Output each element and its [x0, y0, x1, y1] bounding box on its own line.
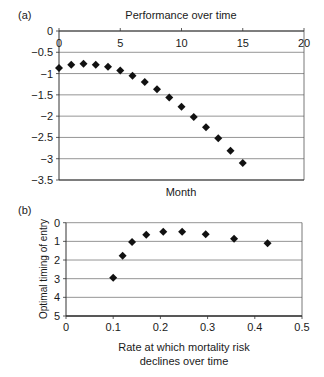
data-point-diamond [104, 63, 112, 71]
axes [56, 28, 304, 180]
y-tick-label: −1 [40, 68, 53, 80]
data-point-diamond [141, 78, 149, 86]
panel-label-b: (b) [18, 204, 31, 216]
data-point-diamond [55, 64, 63, 72]
y-tick-label: −3 [40, 153, 53, 165]
x-tick-label: 0 [63, 321, 69, 333]
y-tick-label: −2.5 [31, 131, 53, 143]
x-tick-label: 0.1 [106, 321, 121, 333]
y-tick-label: 3 [54, 273, 60, 285]
x-tick-label: 0.3 [200, 321, 215, 333]
data-point-diamond [153, 85, 161, 93]
y-tick-label: 4 [54, 291, 60, 303]
data-point-diamond [92, 61, 100, 69]
tick-labels: 0−0.5−1−1.5−2−2.5−3−3.505101520 [31, 25, 310, 186]
x-tick-label: 0.4 [247, 321, 262, 333]
data-point-diamond [178, 228, 186, 236]
data-point-diamond [80, 60, 88, 68]
data-point-diamond [202, 230, 210, 238]
panel-label-a: (a) [18, 9, 31, 21]
x-axis-label: Month [166, 186, 197, 198]
chart-title: Performance over time [125, 9, 236, 21]
data-point-diamond [109, 274, 117, 282]
y-tick-label: −0.5 [31, 46, 53, 58]
data-point-diamond [178, 103, 186, 111]
panel-a-performance-chart: (a) Performance over time 0−0.5−1−1.5−2−… [18, 9, 310, 198]
data-point-diamond [227, 147, 235, 155]
data-point-diamond [142, 231, 150, 239]
x-tick-label: 0 [56, 37, 62, 49]
y-tick-label: 2 [54, 254, 60, 266]
y-tick-label: −2 [40, 110, 53, 122]
x-tick-label: 10 [175, 37, 187, 49]
data-point-diamond [202, 123, 210, 131]
gridlines [66, 223, 302, 316]
data-point-diamond [129, 72, 137, 80]
data-point-diamond [159, 228, 167, 236]
data-point-diamond [264, 239, 272, 247]
y-axis-label: Optimal timing of entry [38, 219, 49, 319]
data-points [55, 60, 247, 167]
y-tick-label: −3.5 [31, 174, 53, 186]
data-point-diamond [190, 113, 198, 121]
figure: (a) Performance over time 0−0.5−1−1.5−2−… [0, 0, 324, 377]
x-axis-label-line-1: Rate at which mortality risk [118, 341, 250, 353]
data-point-diamond [239, 159, 247, 167]
data-point-diamond [119, 252, 127, 260]
y-tick-label: 5 [54, 310, 60, 322]
y-tick-label: 1 [54, 235, 60, 247]
y-tick-label: 0 [47, 25, 53, 37]
x-axis-label-line-2: declines over time [140, 355, 229, 367]
data-point-diamond [214, 134, 222, 142]
x-tick-label: 20 [298, 37, 310, 49]
x-tick-label: 5 [117, 37, 123, 49]
x-tick-label: 15 [237, 37, 249, 49]
panel-b-optimal-timing-chart: (b) Optimal timing of entry 01234500.10.… [18, 204, 310, 367]
data-point-diamond [67, 61, 75, 69]
x-tick-label: 0.5 [294, 321, 309, 333]
x-tick-label: 0.2 [153, 321, 168, 333]
data-points [109, 228, 271, 282]
y-tick-label: −1.5 [31, 89, 53, 101]
data-point-diamond [128, 238, 136, 246]
axes [63, 223, 302, 319]
y-tick-label: 0 [54, 217, 60, 229]
